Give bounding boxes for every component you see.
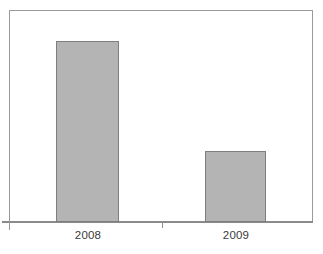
bar-2008 xyxy=(56,41,119,222)
x-axis-label-2009: 2009 xyxy=(196,228,276,243)
x-axis-baseline xyxy=(2,221,313,223)
bar-chart: 2008 2009 xyxy=(0,0,323,254)
bar-2009 xyxy=(205,151,266,222)
x-axis-tick xyxy=(162,222,163,228)
x-axis-label-2008: 2008 xyxy=(48,228,128,243)
y-axis-spine xyxy=(9,212,10,230)
plot-area-frame xyxy=(9,10,313,222)
